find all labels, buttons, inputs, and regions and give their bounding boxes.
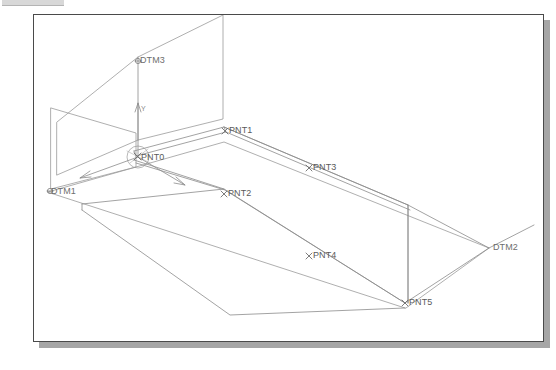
label-dtm2: DTM2 xyxy=(493,243,518,252)
model-lower-face xyxy=(82,189,405,315)
model-right-edges xyxy=(405,205,534,303)
label-dtm1: DTM1 xyxy=(51,187,76,196)
datum-plane-dtm3 xyxy=(57,15,223,175)
label-pnt4: PNT4 xyxy=(313,251,336,260)
label-dtm3: DTM3 xyxy=(140,56,165,65)
datum-plane-dtm2 xyxy=(48,142,489,308)
model-mid-surface xyxy=(134,127,408,303)
model-upper-face xyxy=(134,127,410,210)
marker-pnt2 xyxy=(221,191,227,197)
marker-pnt0 xyxy=(134,153,141,160)
label-pnt0: PNT0 xyxy=(141,153,164,162)
screenshot-root: DTM3 DTM1 DTM2 PNT0 PNT1 PNT2 PNT3 PNT4 … xyxy=(0,0,556,370)
label-pnt2: PNT2 xyxy=(228,189,251,198)
toolbar-strip-fragment xyxy=(2,0,64,6)
axis-label-y: Y xyxy=(141,105,146,112)
marker-pnt5 xyxy=(402,300,408,306)
model-geometry xyxy=(34,15,544,342)
label-pnt3: PNT3 xyxy=(313,163,336,172)
label-pnt5: PNT5 xyxy=(409,298,432,307)
marker-pnt4 xyxy=(306,253,312,259)
cad-graphics-viewport[interactable]: DTM3 DTM1 DTM2 PNT0 PNT1 PNT2 PNT3 PNT4 … xyxy=(33,14,544,342)
label-pnt1: PNT1 xyxy=(229,126,252,135)
datum-plane-dtm1 xyxy=(51,108,136,189)
